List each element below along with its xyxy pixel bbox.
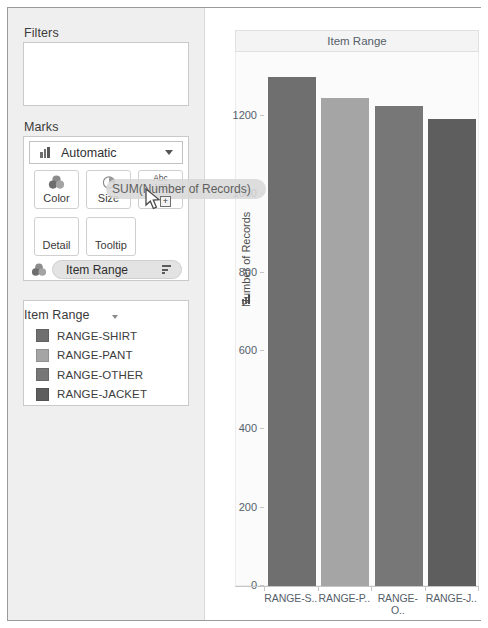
view-panel: Item Range Number of Records 02004006008… <box>204 8 481 620</box>
y-axis-tick-label: 600 <box>239 344 264 356</box>
x-axis: RANGE-S..RANGE-P..RANGE-O..RANGE-J.. <box>235 586 479 612</box>
x-axis-tick <box>264 587 265 591</box>
marks-color-button[interactable]: Color <box>34 170 79 209</box>
legend-color-swatch <box>36 368 49 381</box>
marks-tooltip-label: Tooltip <box>95 239 127 251</box>
legend-item[interactable]: RANGE-OTHER <box>36 365 186 385</box>
chart-title-bar[interactable]: Item Range <box>235 30 479 52</box>
x-axis-tick <box>318 587 319 591</box>
color-circles-icon <box>30 263 48 277</box>
y-axis-ticks: 020040060080010001200 <box>220 52 264 586</box>
chevron-down-icon[interactable] <box>112 315 118 319</box>
x-axis-labels: RANGE-S..RANGE-P..RANGE-O..RANGE-J.. <box>264 592 478 616</box>
legend-item-label: RANGE-OTHER <box>57 369 143 381</box>
bar-chart-icon <box>35 147 55 158</box>
y-axis-tick-label: 800 <box>239 266 264 278</box>
bar[interactable] <box>268 77 316 586</box>
bar[interactable] <box>375 106 423 586</box>
drag-add-badge: + <box>160 196 171 207</box>
drag-ghost-pill-label: SUM(Number of Records) <box>112 182 251 196</box>
y-axis-tick: 200 <box>220 501 264 513</box>
legend-item-label: RANGE-SHIRT <box>57 330 137 342</box>
color-legend-title: Item Range <box>24 308 90 322</box>
y-axis-tick: 400 <box>220 422 264 434</box>
legend-item[interactable]: RANGE-SHIRT <box>36 326 186 346</box>
x-axis-label[interactable]: RANGE-J.. <box>425 592 479 616</box>
screenshot-root: Filters Marks Automatic <box>0 0 488 628</box>
color-shelf-pill-item-range[interactable]: Item Range <box>52 260 182 279</box>
filters-card-title: Filters <box>24 26 59 40</box>
marks-card-title: Marks <box>24 120 59 134</box>
y-axis-tick: 600 <box>220 344 264 356</box>
bar[interactable] <box>428 119 476 586</box>
app-frame: Filters Marks Automatic <box>7 7 481 621</box>
color-circles-icon <box>48 173 65 192</box>
x-axis-label[interactable]: RANGE-P.. <box>318 592 372 616</box>
legend-item[interactable]: RANGE-PANT <box>36 346 186 366</box>
marks-tooltip-button[interactable]: Tooltip <box>86 217 136 256</box>
bars-container <box>265 52 479 586</box>
legend-color-swatch <box>36 349 49 362</box>
color-shelf-row: Item Range <box>30 259 182 280</box>
mark-type-dropdown[interactable]: Automatic <box>29 141 183 164</box>
legend-item[interactable]: RANGE-JACKET <box>36 385 186 405</box>
color-shelf-pill-label: Item Range <box>66 263 162 277</box>
sort-descending-icon[interactable] <box>162 265 171 274</box>
x-axis-label[interactable]: RANGE-O.. <box>371 592 425 616</box>
y-axis-tick-label: 400 <box>239 422 264 434</box>
plot-area[interactable]: Number of Records 020040060080010001200 <box>235 52 479 586</box>
bar[interactable] <box>321 98 369 586</box>
legend-color-swatch <box>36 329 49 342</box>
filters-card[interactable] <box>23 42 189 106</box>
legend-item-label: RANGE-PANT <box>57 349 133 361</box>
y-axis-tick-label: 200 <box>239 501 264 513</box>
chart-title: Item Range <box>327 35 386 47</box>
marks-detail-label: Detail <box>42 239 70 251</box>
y-axis-tick: 800 <box>220 266 264 278</box>
x-axis-tick <box>371 587 372 591</box>
x-axis-tick <box>425 587 426 591</box>
legend-item-label: RANGE-JACKET <box>57 388 147 400</box>
legend-color-swatch <box>36 388 49 401</box>
x-axis-tick <box>478 587 479 591</box>
marks-color-label: Color <box>43 192 69 204</box>
y-axis-tick-label: 1200 <box>233 109 264 121</box>
x-axis-label[interactable]: RANGE-S.. <box>264 592 318 616</box>
drag-ghost-pill: SUM(Number of Records) <box>106 179 266 199</box>
color-legend-items: RANGE-SHIRTRANGE-PANTRANGE-OTHERRANGE-JA… <box>36 326 186 404</box>
y-axis-tick: 1200 <box>220 109 264 121</box>
left-panel: Filters Marks Automatic <box>8 8 204 620</box>
chevron-down-icon <box>165 150 173 155</box>
mark-type-label: Automatic <box>61 146 165 160</box>
marks-detail-button[interactable]: Detail <box>34 217 79 256</box>
